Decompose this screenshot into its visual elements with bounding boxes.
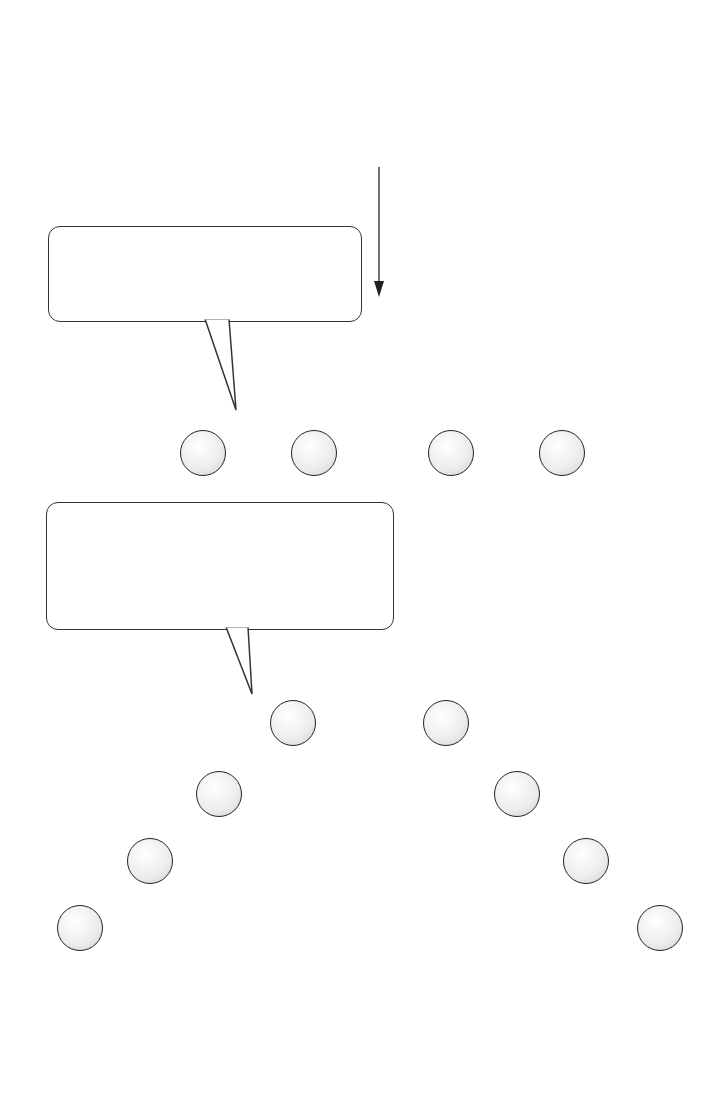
callout-pointer-2 — [224, 626, 274, 696]
callout-gamete-types — [48, 226, 362, 322]
parent-seed-wrinkled-green — [428, 74, 512, 178]
egg-gamete-Sy — [196, 771, 242, 817]
sperm-gamete-sY — [563, 838, 609, 884]
gamete-sY — [428, 430, 474, 476]
down-arrow-icon — [370, 165, 390, 300]
egg-gamete-sy — [57, 905, 103, 951]
egg-gamete-SY — [270, 700, 316, 746]
parent-seed-round-yellow — [244, 70, 324, 178]
callout-random-combination — [46, 502, 394, 630]
gamete-Sy — [291, 430, 337, 476]
sperm-gamete-sy — [637, 905, 683, 951]
gamete-SY — [180, 430, 226, 476]
sperm-gamete-SY — [423, 700, 469, 746]
f1-seed-round-yellow — [343, 322, 423, 430]
egg-gamete-sY — [127, 838, 173, 884]
callout-pointer-1 — [195, 318, 245, 413]
sperm-gamete-Sy — [494, 771, 540, 817]
gamete-sy — [539, 430, 585, 476]
